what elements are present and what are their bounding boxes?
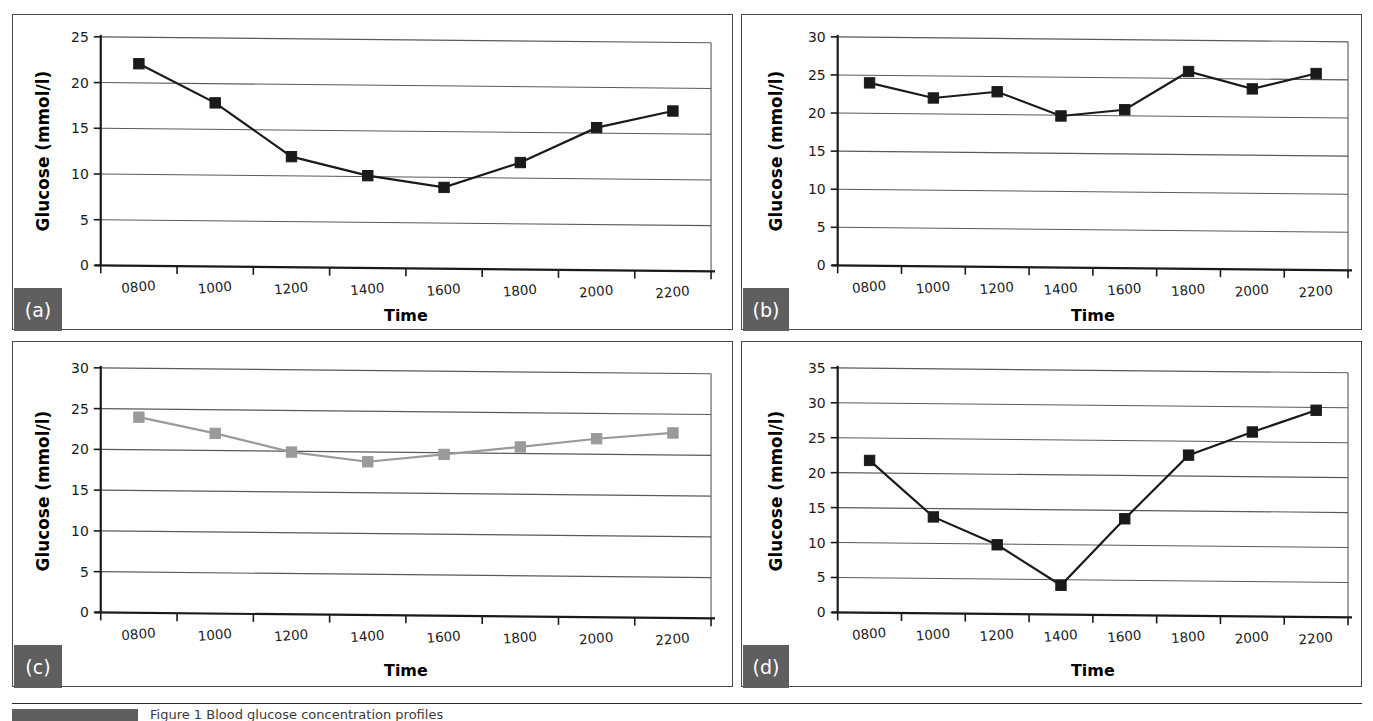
- svg-text:0: 0: [817, 257, 826, 273]
- svg-text:1600: 1600: [426, 281, 461, 299]
- figure-grid: 0510152025080010001200140016001800200022…: [0, 0, 1373, 721]
- svg-text:Glucose (mmol/l): Glucose (mmol/l): [766, 411, 786, 572]
- svg-text:1000: 1000: [197, 626, 232, 644]
- line-chart-d: 0510152025303508001000120014001600180020…: [742, 342, 1361, 686]
- svg-text:Glucose (mmol/l): Glucose (mmol/l): [33, 71, 53, 232]
- panel-label-a: (a): [14, 288, 62, 331]
- svg-text:25: 25: [808, 430, 826, 446]
- svg-text:Glucose (mmol/l): Glucose (mmol/l): [33, 411, 53, 572]
- panel-label-d: (d): [743, 645, 789, 688]
- svg-text:30: 30: [71, 360, 89, 376]
- chart-area-c: 0510152025300800100012001400160018002000…: [13, 342, 732, 686]
- caption-divider: [12, 703, 1362, 704]
- svg-text:2200: 2200: [655, 283, 690, 301]
- svg-text:5: 5: [80, 564, 89, 580]
- svg-text:1200: 1200: [273, 280, 308, 298]
- line-chart-b: 0510152025300800100012001400160018002000…: [742, 15, 1361, 329]
- svg-text:1800: 1800: [1170, 281, 1205, 299]
- svg-text:0800: 0800: [851, 278, 886, 296]
- chart-panel-c: 0510152025300800100012001400160018002000…: [12, 341, 733, 687]
- svg-text:20: 20: [808, 465, 826, 481]
- svg-text:0: 0: [817, 604, 826, 620]
- svg-text:10: 10: [71, 523, 89, 539]
- svg-text:1000: 1000: [197, 279, 232, 297]
- svg-text:2200: 2200: [1298, 282, 1333, 300]
- svg-text:2000: 2000: [1234, 629, 1269, 647]
- svg-text:0: 0: [80, 257, 89, 273]
- svg-text:1200: 1200: [979, 279, 1014, 297]
- svg-text:2000: 2000: [579, 283, 614, 301]
- svg-text:2200: 2200: [1298, 630, 1333, 648]
- svg-text:2200: 2200: [655, 630, 690, 648]
- svg-text:Time: Time: [384, 306, 428, 325]
- svg-text:1000: 1000: [915, 279, 950, 297]
- panel-label-b: (b): [743, 288, 789, 331]
- svg-text:1800: 1800: [502, 629, 537, 647]
- svg-text:1600: 1600: [426, 628, 461, 646]
- svg-text:1400: 1400: [350, 627, 385, 645]
- svg-text:15: 15: [71, 120, 89, 136]
- svg-text:0800: 0800: [851, 625, 886, 643]
- svg-text:1000: 1000: [915, 626, 950, 644]
- chart-area-d: 0510152025303508001000120014001600180020…: [742, 342, 1361, 686]
- svg-text:Time: Time: [384, 661, 428, 680]
- svg-text:25: 25: [71, 29, 89, 45]
- chart-panel-b: 0510152025300800100012001400160018002000…: [741, 14, 1362, 330]
- svg-text:0800: 0800: [121, 278, 156, 296]
- line-chart-a: 0510152025080010001200140016001800200022…: [13, 15, 732, 329]
- svg-text:1800: 1800: [502, 282, 537, 300]
- svg-text:2000: 2000: [1234, 282, 1269, 300]
- svg-text:0800: 0800: [121, 625, 156, 643]
- svg-text:20: 20: [808, 105, 826, 121]
- caption-marker: [12, 709, 138, 721]
- svg-text:2000: 2000: [579, 630, 614, 648]
- line-chart-c: 0510152025300800100012001400160018002000…: [13, 342, 732, 686]
- svg-text:5: 5: [817, 219, 826, 235]
- svg-text:30: 30: [808, 395, 826, 411]
- svg-text:5: 5: [817, 569, 826, 585]
- svg-text:1800: 1800: [1170, 628, 1205, 646]
- svg-text:1400: 1400: [1043, 627, 1078, 645]
- svg-text:1200: 1200: [979, 626, 1014, 644]
- panel-label-c: (c): [14, 645, 62, 688]
- svg-text:Glucose (mmol/l): Glucose (mmol/l): [766, 71, 786, 232]
- svg-text:10: 10: [71, 166, 89, 182]
- svg-text:5: 5: [80, 212, 89, 228]
- figure-caption: Figure 1 Blood glucose concentration pro…: [150, 707, 443, 721]
- svg-text:1600: 1600: [1107, 281, 1142, 299]
- chart-area-b: 0510152025300800100012001400160018002000…: [742, 15, 1361, 329]
- svg-text:10: 10: [808, 181, 826, 197]
- svg-text:15: 15: [808, 143, 826, 159]
- chart-panel-a: 0510152025080010001200140016001800200022…: [12, 14, 733, 330]
- chart-area-a: 0510152025080010001200140016001800200022…: [13, 15, 732, 329]
- svg-text:15: 15: [808, 500, 826, 516]
- svg-text:1200: 1200: [273, 627, 308, 645]
- svg-text:Time: Time: [1071, 306, 1115, 325]
- svg-text:30: 30: [808, 29, 826, 45]
- svg-text:0: 0: [80, 604, 89, 620]
- svg-text:20: 20: [71, 75, 89, 91]
- svg-text:35: 35: [808, 360, 826, 376]
- svg-text:15: 15: [71, 482, 89, 498]
- svg-text:1400: 1400: [1043, 280, 1078, 298]
- svg-text:25: 25: [71, 401, 89, 417]
- svg-text:1600: 1600: [1107, 628, 1142, 646]
- svg-text:25: 25: [808, 67, 826, 83]
- svg-text:1400: 1400: [350, 280, 385, 298]
- svg-text:20: 20: [71, 441, 89, 457]
- svg-text:10: 10: [808, 535, 826, 551]
- chart-panel-d: 0510152025303508001000120014001600180020…: [741, 341, 1362, 687]
- svg-text:Time: Time: [1071, 661, 1115, 680]
